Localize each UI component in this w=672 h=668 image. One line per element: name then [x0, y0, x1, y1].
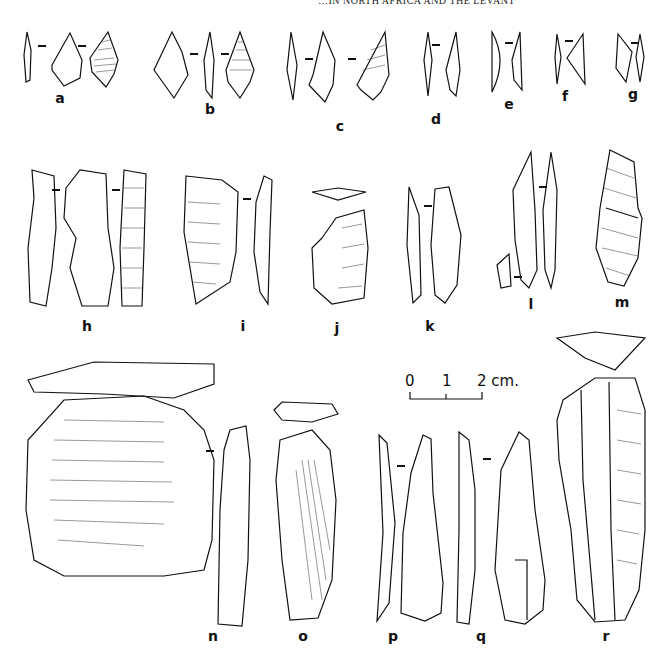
running-head: …IN NORTH AFRICA AND THE LEVANT [318, 0, 515, 6]
label-l: l [529, 296, 534, 312]
scale-bar: 0 1 2 cm. [405, 372, 545, 412]
artifact-m [594, 148, 646, 288]
label-b: b [205, 101, 215, 117]
label-m: m [615, 294, 630, 310]
label-o: o [298, 628, 308, 644]
artifact-i [180, 172, 280, 306]
artifact-q [455, 430, 565, 625]
artifact-o [272, 400, 342, 625]
artifact-n [24, 360, 264, 622]
artifact-l [495, 150, 570, 290]
label-q: q [476, 628, 486, 644]
label-c: c [336, 118, 344, 134]
artifact-r [555, 330, 655, 630]
label-k: k [425, 318, 434, 334]
label-h: h [82, 318, 92, 334]
label-j: j [335, 320, 340, 336]
artifact-j [308, 188, 378, 308]
label-a: a [55, 90, 64, 106]
label-i: i [241, 318, 246, 334]
label-p: p [388, 628, 398, 644]
artifact-c [285, 30, 395, 105]
artifact-b [152, 30, 262, 100]
label-n: n [208, 628, 218, 644]
label-r: r [603, 628, 610, 644]
label-e: e [504, 96, 514, 112]
artifact-p [375, 433, 450, 623]
artifact-g [614, 32, 646, 82]
artifact-a [22, 30, 127, 90]
artifact-k [405, 185, 465, 305]
label-d: d [431, 111, 441, 127]
artifact-d [422, 30, 462, 98]
artifact-e [490, 30, 526, 92]
artifact-h [24, 168, 149, 308]
label-g: g [628, 86, 638, 102]
label-f: f [562, 88, 568, 104]
